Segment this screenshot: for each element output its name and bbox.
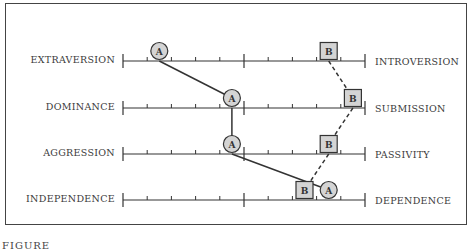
- marker-a-label: A: [227, 140, 236, 150]
- marker-b-label: B: [325, 47, 333, 57]
- series-a-connector: [232, 154, 329, 190]
- marker-b-label: B: [349, 94, 357, 104]
- marker-a-label: A: [227, 94, 236, 104]
- series-a-connector: [159, 61, 232, 98]
- marker-a-label: A: [155, 47, 164, 57]
- figure-caption: FIGURE: [2, 240, 50, 251]
- marker-b-label: B: [325, 140, 333, 150]
- marker-a-label: A: [324, 186, 333, 196]
- marker-b-label: B: [301, 186, 309, 196]
- profile-plot: ABABABAB: [0, 0, 470, 251]
